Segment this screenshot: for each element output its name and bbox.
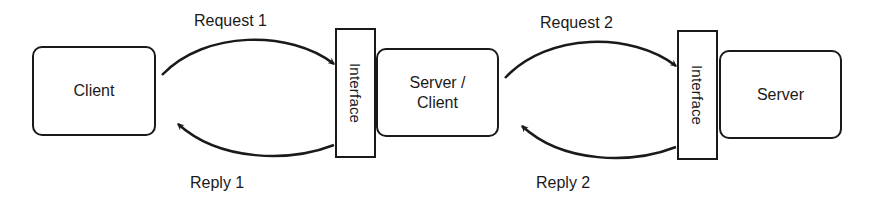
reply-1-label: Reply 1 bbox=[190, 174, 244, 192]
request-1-arrow bbox=[162, 40, 334, 75]
interface-1-node: Interface bbox=[335, 28, 376, 158]
server-client-label-line1: Server / bbox=[409, 73, 465, 93]
interface-2-node: Interface bbox=[677, 30, 718, 160]
interface-1-label: Interface bbox=[347, 63, 364, 123]
client-label: Client bbox=[74, 81, 115, 101]
request-2-arrow bbox=[505, 42, 676, 78]
server-label: Server bbox=[757, 85, 804, 105]
reply-1-arrow bbox=[178, 124, 334, 156]
request-1-label: Request 1 bbox=[194, 12, 267, 30]
request-2-label: Request 2 bbox=[540, 14, 613, 32]
reply-2-arrow bbox=[522, 126, 676, 158]
server-node: Server bbox=[719, 50, 842, 139]
server-client-node: Server / Client bbox=[376, 48, 499, 137]
server-client-label-line2: Client bbox=[417, 93, 458, 113]
interface-2-label: Interface bbox=[689, 65, 706, 125]
client-node: Client bbox=[32, 46, 156, 136]
reply-2-label: Reply 2 bbox=[536, 174, 590, 192]
